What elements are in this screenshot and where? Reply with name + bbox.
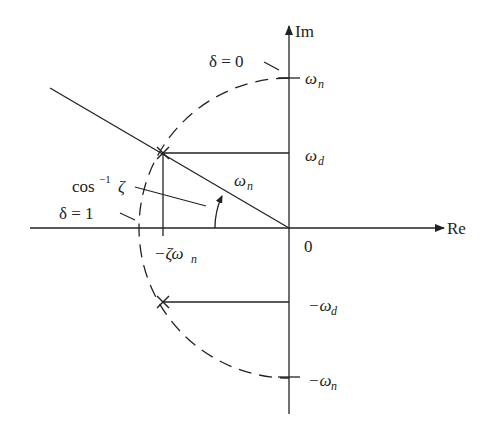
svg-text:n: n xyxy=(318,77,324,91)
svg-text:ω: ω xyxy=(234,171,246,190)
svg-text:−ω: −ω xyxy=(308,371,331,390)
svg-text:−ζω: −ζω xyxy=(154,244,183,263)
s-plane-diagram: Im Re 0 δ = 0 δ = 1 ω n ω d ω n −ω d −ω … xyxy=(0,0,490,426)
real-axis-label: Re xyxy=(447,219,466,238)
delta0-leader xyxy=(264,62,279,70)
delta1-leader xyxy=(120,213,135,220)
acos-zeta-label: cos −1 ζ xyxy=(72,173,126,196)
svg-text:d: d xyxy=(318,154,325,168)
zeta-wn-label: −ζω n xyxy=(154,244,197,266)
neg-wd-label: −ω d xyxy=(308,296,338,318)
svg-text:cos: cos xyxy=(72,177,95,196)
acos-leader xyxy=(135,187,206,206)
svg-text:ζ: ζ xyxy=(118,177,126,196)
svg-text:d: d xyxy=(331,304,338,318)
svg-text:n: n xyxy=(331,379,337,393)
angle-arc-arrow-icon xyxy=(215,196,222,228)
svg-text:−ω: −ω xyxy=(308,296,331,315)
wn-radius-label: ω n xyxy=(234,171,253,193)
wd-top-label: ω d xyxy=(305,146,325,168)
svg-text:ω: ω xyxy=(305,69,317,88)
delta0-label: δ = 0 xyxy=(209,52,244,71)
svg-text:ω: ω xyxy=(305,146,317,165)
imag-axis-label: Im xyxy=(295,22,314,41)
svg-text:n: n xyxy=(247,179,253,193)
delta1-label: δ = 1 xyxy=(59,204,94,223)
neg-wn-label: −ω n xyxy=(308,371,337,393)
svg-text:−1: −1 xyxy=(99,173,111,185)
svg-text:n: n xyxy=(191,252,197,266)
wn-top-label: ω n xyxy=(305,69,324,91)
origin-label: 0 xyxy=(304,237,313,256)
